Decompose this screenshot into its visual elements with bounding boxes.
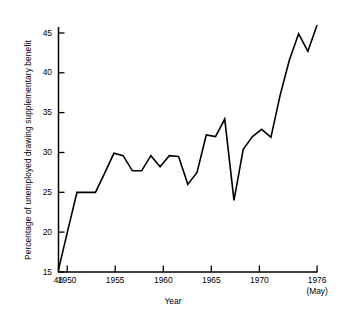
x-tick-sublabel-may: (May) — [297, 286, 337, 296]
x-tick-label-1950: 1950 — [47, 275, 87, 285]
y-tick-label-30: 30 — [32, 147, 52, 157]
x-tick-label-1955: 1955 — [95, 275, 135, 285]
data-series-line — [59, 25, 318, 270]
y-tick-label-45: 45 — [32, 28, 52, 38]
x-tick-label-1976: 1976 — [297, 275, 337, 285]
chart-container: Percentage of unemployed drawing supplem… — [0, 0, 346, 321]
x-tick-label-1970: 1970 — [239, 275, 279, 285]
y-tick-label-20: 20 — [32, 227, 52, 237]
x-tick-label-1960: 1960 — [143, 275, 183, 285]
y-axis-ticks — [59, 33, 65, 272]
x-axis-ticks — [59, 266, 318, 273]
x-axis-title: Year — [0, 296, 346, 306]
x-tick-label-1965: 1965 — [191, 275, 231, 285]
y-tick-label-35: 35 — [32, 107, 52, 117]
y-tick-label-25: 25 — [32, 187, 52, 197]
y-tick-label-40: 40 — [32, 67, 52, 77]
chart-axes — [59, 27, 318, 273]
